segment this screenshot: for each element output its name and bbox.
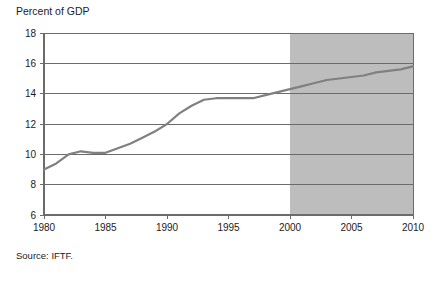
source-note: Source: IFTF.	[16, 250, 73, 262]
y-tick-labels: 181614121086	[25, 28, 37, 221]
y-tick-label-12: 12	[25, 119, 37, 130]
x-tick-label-1980: 1980	[33, 222, 56, 233]
x-tick-label-2010: 2010	[402, 222, 425, 233]
chart-figure: Percent of GDP 181614121086 198019851990…	[0, 0, 436, 286]
y-tick-label-18: 18	[25, 28, 37, 39]
chart-svg: 181614121086 198019851990199520002005201…	[0, 0, 436, 286]
y-tick-label-14: 14	[25, 88, 37, 99]
x-tick-label-1985: 1985	[94, 222, 117, 233]
y-tick-label-16: 16	[25, 58, 37, 69]
x-tick-label-1995: 1995	[217, 222, 240, 233]
x-tick-label-2005: 2005	[340, 222, 363, 233]
y-tick-label-8: 8	[30, 179, 36, 190]
x-tick-label-1990: 1990	[156, 222, 179, 233]
y-tick-label-6: 6	[30, 210, 36, 221]
x-tick-label-2000: 2000	[279, 222, 302, 233]
plot-area-wrapper: 181614121086 198019851990199520002005201…	[0, 0, 436, 286]
x-tick-labels: 1980198519901995200020052010	[33, 222, 425, 233]
y-tick-label-10: 10	[25, 149, 37, 160]
